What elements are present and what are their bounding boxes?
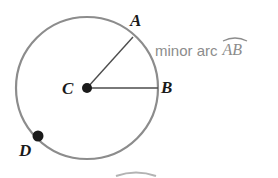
arc-symbol-icon: [222, 35, 248, 42]
minor-arc-annotation: minor arc AB: [155, 38, 242, 58]
annotation-arc-name-group: AB: [223, 38, 243, 58]
point-c-dot: [82, 83, 92, 93]
point-d-dot: [33, 131, 44, 142]
point-label-a: A: [130, 12, 141, 29]
annotation-arc-name: AB: [223, 41, 243, 58]
annotation-text: minor arc: [155, 43, 218, 58]
radius-line-ca: [87, 37, 133, 88]
point-label-d: D: [19, 142, 31, 159]
point-label-c: C: [62, 80, 73, 97]
cropped-arc-symbol: [116, 173, 156, 177]
point-label-b: B: [161, 79, 172, 96]
